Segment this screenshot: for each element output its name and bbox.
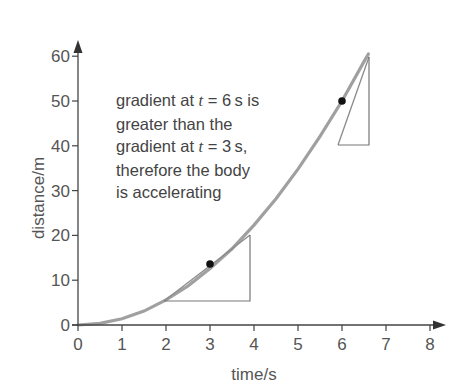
x-tick-label: 1: [117, 335, 126, 354]
y-axis-ticks: 0102030405060: [51, 47, 78, 335]
y-tick-label: 60: [51, 47, 70, 66]
y-tick-label: 30: [51, 182, 70, 201]
annotation-text: gradient at: [116, 91, 199, 109]
point-t6: [338, 97, 346, 105]
x-tick-label: 6: [337, 335, 346, 354]
y-axis-arrow-icon: [74, 40, 83, 53]
annotation-line-5: is accelerating: [116, 181, 259, 204]
y-tick-label: 20: [51, 226, 70, 245]
y-tick-label: 0: [61, 316, 70, 335]
y-tick-label: 40: [51, 137, 70, 156]
annotation-line-4: therefore the body: [116, 159, 259, 182]
x-tick-label: 3: [205, 335, 214, 354]
x-axis-arrow-icon: [433, 321, 446, 330]
annotation-text: = 6 s is: [203, 91, 259, 109]
x-tick-label: 4: [249, 335, 258, 354]
x-tick-label: 5: [293, 335, 302, 354]
y-axis-title: distance/m: [29, 157, 48, 239]
x-tick-label: 0: [73, 335, 82, 354]
gradient-annotation: gradient at t = 6 s is greater than the …: [116, 89, 259, 204]
point-t3: [206, 260, 214, 268]
x-axis-ticks: 012345678: [73, 325, 434, 354]
x-tick-label: 8: [425, 335, 434, 354]
x-tick-label: 2: [161, 335, 170, 354]
x-axis-title: time/s: [231, 365, 276, 384]
annotation-line-3: gradient at t = 3 s,: [116, 135, 259, 159]
annotation-line-1: gradient at t = 6 s is: [116, 89, 259, 113]
annotation-text: gradient at: [116, 137, 199, 155]
x-tick-label: 7: [381, 335, 390, 354]
annotation-line-2: greater than the: [116, 113, 259, 136]
tangent-line-t3: [164, 235, 250, 301]
y-tick-label: 10: [51, 271, 70, 290]
annotation-text: = 3 s,: [203, 137, 247, 155]
y-tick-label: 50: [51, 92, 70, 111]
